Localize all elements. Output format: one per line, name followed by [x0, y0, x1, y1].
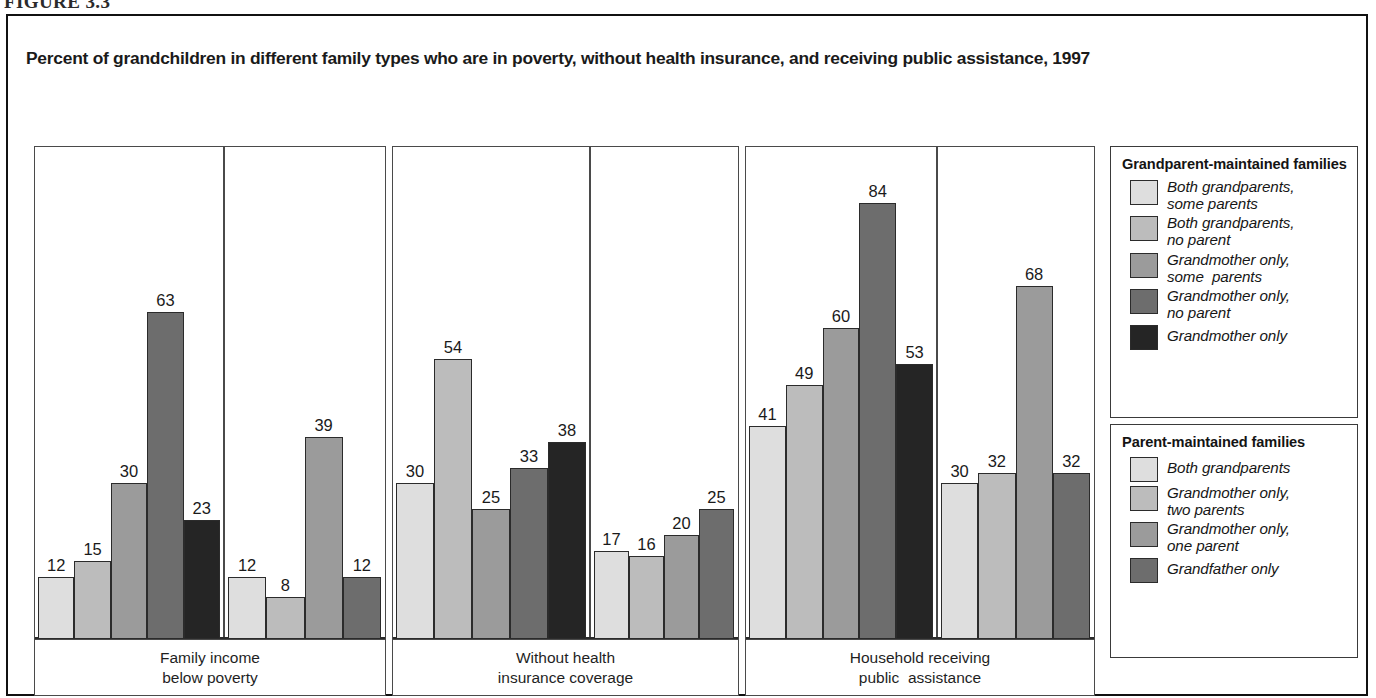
legend-swatch-icon	[1130, 253, 1158, 278]
bar-value-label: 84	[859, 182, 896, 201]
bar-parent-maintained	[266, 597, 304, 639]
legend-heading: Grandparent-maintained families	[1122, 156, 1347, 173]
legend-item[interactable]: Grandmother only,one parent	[1122, 520, 1347, 554]
panel-subgroup-divider	[936, 147, 938, 639]
bar-value-label: 54	[434, 338, 472, 357]
legend-item[interactable]: Both grandparents,some parents	[1122, 178, 1347, 212]
bar-value-label: 41	[749, 405, 786, 424]
legend-item-label: Grandmother only,no parent	[1167, 287, 1290, 321]
bar-value-label: 60	[823, 307, 860, 326]
legend-box-grandparent-maintained: Grandparent-maintained familiesBoth gran…	[1110, 146, 1358, 418]
bar-value-label: 30	[111, 462, 147, 481]
legend-swatch-icon	[1130, 180, 1158, 205]
bar-grandparent-maintained	[147, 312, 183, 639]
legend-item-label: Both grandparents,no parent	[1167, 214, 1294, 248]
bar-grandparent-maintained	[396, 483, 434, 639]
bar-value-label: 49	[786, 364, 823, 383]
legend-item-label: Grandmother only	[1167, 324, 1287, 345]
legend-item-label: Grandmother only,one parent	[1167, 520, 1290, 554]
bar-parent-maintained	[664, 535, 699, 639]
legend-swatch-icon	[1130, 216, 1158, 241]
legend-swatch-icon	[1130, 486, 1158, 511]
bar-grandparent-maintained	[749, 426, 786, 639]
bar-value-label: 15	[74, 540, 110, 559]
bar-grandparent-maintained	[510, 468, 548, 639]
bar-parent-maintained	[305, 437, 343, 639]
bar-value-label: 8	[266, 576, 304, 595]
bar-value-label: 25	[472, 488, 510, 507]
bar-value-label: 32	[978, 452, 1015, 471]
chart-panel: 414960845330326832Household receivingpub…	[745, 146, 1095, 696]
panel-caption-text: Without healthinsurance coverage	[498, 648, 633, 688]
bar-value-label: 30	[396, 462, 434, 481]
legend-swatch-icon	[1130, 289, 1158, 314]
chart-panel: 12153063231283912Family incomebelow pove…	[34, 146, 386, 696]
bar-value-label: 12	[38, 556, 74, 575]
legend-item-label: Both grandparents,some parents	[1167, 178, 1294, 212]
bar-grandparent-maintained	[38, 577, 74, 639]
legend-swatch-icon	[1130, 457, 1158, 482]
bar-value-label: 30	[941, 462, 978, 481]
bar-value-label: 39	[305, 416, 343, 435]
panel-caption-text: Family incomebelow poverty	[160, 648, 260, 688]
bar-value-label: 32	[1053, 452, 1090, 471]
bar-grandparent-maintained	[184, 520, 220, 639]
bar-value-label: 16	[629, 535, 664, 554]
bar-value-label: 25	[699, 488, 734, 507]
legend-item[interactable]: Both grandparents,no parent	[1122, 214, 1347, 248]
bar-grandparent-maintained	[859, 203, 896, 639]
chart-title: Percent of grandchildren in different fa…	[26, 48, 1356, 69]
panel-caption-text: Household receivingpublic assistance	[850, 648, 990, 688]
legend-item[interactable]: Grandmother only,no parent	[1122, 287, 1347, 321]
panel-caption: Family incomebelow poverty	[35, 639, 385, 695]
legend-item[interactable]: Grandmother only,two parents	[1122, 484, 1347, 518]
bar-parent-maintained	[228, 577, 266, 639]
bar-grandparent-maintained	[434, 359, 472, 639]
bar-grandparent-maintained	[823, 328, 860, 639]
bar-parent-maintained	[941, 483, 978, 639]
legend-item-label: Both grandparents	[1167, 456, 1290, 477]
bar-grandparent-maintained	[896, 364, 933, 639]
chart-panel: 305425333817162025Without healthinsuranc…	[392, 146, 739, 696]
figure-number: FIGURE 3.3	[4, 0, 110, 13]
bar-grandparent-maintained	[74, 561, 110, 639]
bar-value-label: 63	[147, 291, 183, 310]
bar-grandparent-maintained	[111, 483, 147, 639]
panel-caption: Without healthinsurance coverage	[393, 639, 738, 695]
bar-grandparent-maintained	[548, 442, 586, 639]
legend-item[interactable]: Both grandparents	[1122, 456, 1347, 482]
legend-item[interactable]: Grandfather only	[1122, 557, 1347, 583]
bar-grandparent-maintained	[472, 509, 510, 639]
panel-subgroup-divider	[223, 147, 225, 639]
bar-parent-maintained	[1016, 286, 1053, 639]
legend-heading: Parent-maintained families	[1122, 434, 1347, 451]
bar-value-label: 17	[594, 530, 629, 549]
legend-item[interactable]: Grandmother only	[1122, 324, 1347, 350]
bar-parent-maintained	[1053, 473, 1090, 639]
legend-swatch-icon	[1130, 522, 1158, 547]
bar-value-label: 20	[664, 514, 699, 533]
bar-parent-maintained	[699, 509, 734, 639]
legend-item-label: Grandfather only	[1167, 557, 1279, 578]
bar-value-label: 23	[184, 499, 220, 518]
bar-parent-maintained	[629, 556, 664, 639]
bar-value-label: 38	[548, 421, 586, 440]
legend-swatch-icon	[1130, 558, 1158, 583]
bar-parent-maintained	[594, 551, 629, 639]
bar-grandparent-maintained	[786, 385, 823, 639]
legend-item-label: Grandmother only,some parents	[1167, 251, 1290, 285]
bar-parent-maintained	[343, 577, 381, 639]
bar-parent-maintained	[978, 473, 1015, 639]
legend-box-parent-maintained: Parent-maintained familiesBoth grandpare…	[1110, 424, 1358, 658]
bar-value-label: 12	[228, 556, 266, 575]
panel-subgroup-divider	[589, 147, 591, 639]
bar-value-label: 53	[896, 343, 933, 362]
bar-value-label: 68	[1016, 265, 1053, 284]
legend-item-label: Grandmother only,two parents	[1167, 484, 1290, 518]
bar-value-label: 33	[510, 447, 548, 466]
bar-value-label: 12	[343, 556, 381, 575]
panel-caption: Household receivingpublic assistance	[746, 639, 1094, 695]
legend-item[interactable]: Grandmother only,some parents	[1122, 251, 1347, 285]
legend-swatch-icon	[1130, 325, 1158, 350]
